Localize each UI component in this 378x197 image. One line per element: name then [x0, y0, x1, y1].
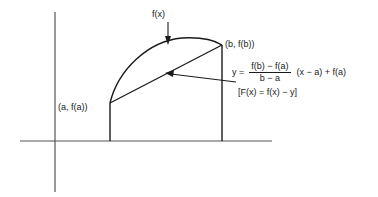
equation-denominator: b − a: [258, 73, 282, 83]
point-label-a: (a, f(a)): [58, 103, 88, 112]
equation-fraction: f(b) − f(a) b − a: [249, 62, 290, 83]
point-label-b: (b, f(b)): [225, 40, 255, 49]
figure-canvas: [0, 0, 378, 197]
equation-numerator: f(b) − f(a): [249, 62, 290, 73]
mean-value-theorem-figure: f(x) (b, f(b)) (a, f(a)) y = f(b) − f(a)…: [0, 0, 378, 197]
equation-lhs: y =: [232, 68, 244, 77]
difference-function-label: [F(x) = f(x) − y]: [238, 88, 297, 97]
curve-label-fx: f(x): [152, 10, 165, 19]
secant-line: [110, 45, 222, 103]
equation-tail: (x − a) + f(a): [297, 68, 347, 77]
function-curve: [110, 38, 222, 103]
secant-equation: y = f(b) − f(a) b − a (x − a) + f(a): [232, 62, 346, 83]
secant-pointer-shaft: [171, 74, 236, 82]
secant-pointer-arrowhead: [165, 70, 174, 77]
